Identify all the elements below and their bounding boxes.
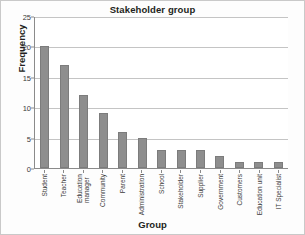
x-tick-label: Student (40, 174, 47, 196)
bar-slot (249, 17, 268, 168)
bar (254, 162, 263, 168)
x-tick-slot: Educationmanager (73, 170, 93, 220)
chart-figure: Stakeholder group Frequency 0510152025 S… (0, 0, 305, 235)
bar (138, 138, 147, 168)
bar (99, 113, 108, 168)
bar-slot (152, 17, 171, 168)
x-tick-slot: Parent (112, 170, 132, 220)
x-tick-slot: Administration (132, 170, 152, 220)
x-tick-slot: Teacher (54, 170, 74, 220)
bar (215, 156, 224, 168)
bar-slot (210, 17, 229, 168)
bar (79, 95, 88, 168)
x-tick-label: Government (216, 174, 223, 210)
x-tick-mark (63, 170, 64, 173)
y-tick-label: 15 (23, 73, 31, 82)
x-tick-slot: School (151, 170, 171, 220)
bar (235, 162, 244, 168)
x-tick-mark (102, 170, 103, 173)
x-tick-mark (200, 170, 201, 173)
bar (177, 150, 186, 168)
x-tick-slot: Government (210, 170, 230, 220)
x-tick-label: IT Specialist (275, 174, 282, 209)
y-tick-label: 10 (23, 104, 31, 113)
bar-slot (35, 17, 54, 168)
bar (196, 150, 205, 168)
x-axis-tick-labels: StudentTeacherEducationmanagerCommunityP… (34, 170, 288, 220)
x-tick-label: Teacher (60, 174, 67, 197)
x-tick-slot: Stakeholder (171, 170, 191, 220)
x-tick-slot: Student (34, 170, 54, 220)
bar-slot (269, 17, 288, 168)
plot-area (34, 17, 288, 169)
bar (274, 162, 283, 168)
bar-slot (93, 17, 112, 168)
bar-slot (191, 17, 210, 168)
bar-slot (74, 17, 93, 168)
x-tick-mark (161, 170, 162, 173)
x-tick-label: Community (99, 174, 106, 207)
x-axis-title: Group (1, 219, 304, 230)
bar-slot (171, 17, 190, 168)
bar-slot (54, 17, 73, 168)
x-tick-mark (220, 170, 221, 173)
bar-slot (113, 17, 132, 168)
x-tick-label: Educationmanager (76, 174, 90, 203)
x-tick-slot: Community (93, 170, 113, 220)
x-tick-mark (83, 170, 84, 173)
bar-series (35, 17, 288, 168)
x-tick-slot: Education unit (249, 170, 269, 220)
y-tick-label: 20 (23, 43, 31, 52)
x-tick-mark (239, 170, 240, 173)
x-tick-label: Customers (236, 174, 243, 205)
x-tick-label: Administration (138, 174, 145, 215)
x-tick-label: Parent (118, 174, 125, 193)
x-tick-mark (278, 170, 279, 173)
x-tick-label: Stakeholder (177, 174, 184, 209)
y-tick-label: 25 (23, 13, 31, 22)
y-axis-tick-labels: 0510152025 (15, 17, 31, 169)
x-tick-slot: Customers (229, 170, 249, 220)
x-tick-mark (44, 170, 45, 173)
bar (118, 132, 127, 168)
bar (157, 150, 166, 168)
chart-title: Stakeholder group (1, 4, 304, 15)
bar (60, 65, 69, 168)
x-tick-label: Supplier (197, 174, 204, 198)
bar (40, 46, 49, 168)
x-tick-mark (122, 170, 123, 173)
x-tick-slot: Supplier (190, 170, 210, 220)
bar-slot (132, 17, 151, 168)
x-tick-label: School (157, 174, 164, 194)
x-tick-slot: IT Specialist (268, 170, 288, 220)
x-tick-mark (141, 170, 142, 173)
x-tick-mark (180, 170, 181, 173)
x-tick-mark (259, 170, 260, 173)
x-tick-label: Education unit (255, 174, 262, 215)
bar-slot (230, 17, 249, 168)
